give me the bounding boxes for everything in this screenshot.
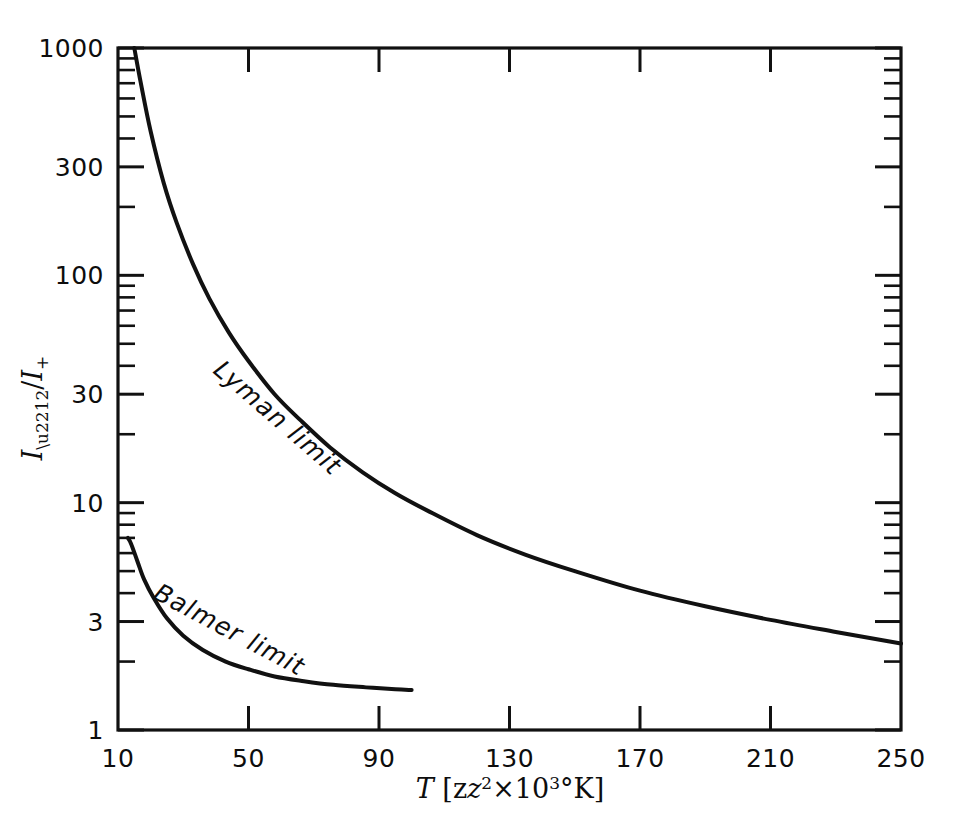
x-tick-label: 250 xyxy=(876,744,925,773)
figure-container: 1310301003001000 105090130170210250 Lyma… xyxy=(0,0,968,829)
x-tick-label: 130 xyxy=(485,744,534,773)
x-axis-major-ticks xyxy=(249,48,771,730)
y-tick-label: 100 xyxy=(55,261,104,290)
y-axis-title: I\u2212/I+ xyxy=(17,356,52,462)
x-tick-label: 10 xyxy=(102,744,135,773)
y-tick-label: 3 xyxy=(88,608,104,637)
x-tick-label: 90 xyxy=(363,744,396,773)
lyman-limit-label: Lyman limit xyxy=(208,355,347,482)
y-tick-label: 300 xyxy=(55,153,104,182)
x-axis-tick-labels: 105090130170210250 xyxy=(102,744,926,773)
y-tick-label: 10 xyxy=(71,489,104,518)
y-tick-label: 1 xyxy=(88,716,104,745)
y-tick-label: 1000 xyxy=(38,34,104,63)
y-axis-minor-ticks xyxy=(118,58,901,661)
curve-lyman-limit xyxy=(134,48,901,644)
x-tick-label: 170 xyxy=(615,744,664,773)
y-tick-label: 30 xyxy=(71,380,104,409)
x-axis-title-T: T xyxy=(416,773,436,804)
x-tick-label: 50 xyxy=(232,744,265,773)
y-axis-tick-labels: 1310301003001000 xyxy=(38,34,104,745)
chart-canvas: 1310301003001000 105090130170210250 Lyma… xyxy=(0,0,968,829)
x-tick-label: 210 xyxy=(746,744,795,773)
x-axis-title: T [zz2×103°K] xyxy=(416,773,604,804)
balmer-limit-label: Balmer limit xyxy=(149,578,310,682)
